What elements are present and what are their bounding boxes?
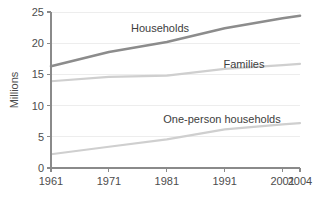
y-tick-label-15: 15 <box>32 68 44 80</box>
series-line-2 <box>51 123 300 154</box>
y-axis-ticks: 0510152025 <box>32 6 51 174</box>
y-axis-title: Millions <box>8 71 20 108</box>
axes <box>51 12 300 168</box>
gridlines <box>51 12 300 168</box>
x-axis-ticks: 196119711981199120012004 <box>39 168 312 187</box>
series-inline-label-1: Families <box>224 58 265 70</box>
y-tick-label-5: 5 <box>38 131 44 143</box>
y-tick-label-10: 10 <box>32 100 44 112</box>
series-inline-labels: HouseholdsFamiliesOne-person households <box>131 22 281 125</box>
series-inline-label-0: Households <box>131 22 190 34</box>
x-tick-label-1971: 1971 <box>97 175 121 187</box>
series-inline-label-2: One-person households <box>163 113 281 125</box>
line-chart-figure: 0510152025 196119711981199120012004 Mill… <box>0 0 314 197</box>
y-tick-label-20: 20 <box>32 37 44 49</box>
x-tick-label-2004: 2004 <box>288 175 312 187</box>
x-tick-label-1981: 1981 <box>155 175 179 187</box>
y-tick-label-0: 0 <box>38 162 44 174</box>
x-tick-label-1961: 1961 <box>39 175 63 187</box>
chart-canvas: 0510152025 196119711981199120012004 Mill… <box>0 0 314 197</box>
series-lines <box>51 16 300 155</box>
y-tick-label-25: 25 <box>32 6 44 18</box>
x-tick-label-1991: 1991 <box>212 175 236 187</box>
